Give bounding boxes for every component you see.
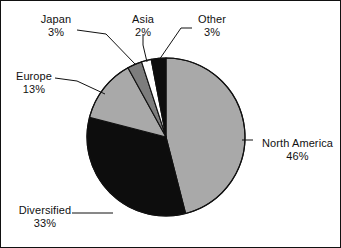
pie-slices bbox=[87, 58, 245, 216]
slice-label-asia-name: Asia bbox=[113, 13, 173, 26]
slice-label-other-percent: 3% bbox=[182, 26, 242, 39]
slice-label-asia: Asia 2% bbox=[113, 13, 173, 38]
leader-line-asia bbox=[143, 34, 147, 62]
slice-label-north-america-percent: 46% bbox=[255, 150, 340, 163]
slice-label-europe: Europe 13% bbox=[3, 70, 65, 95]
slice-label-north-america-name: North America bbox=[255, 137, 340, 150]
slice-label-diversified-percent: 33% bbox=[3, 217, 87, 230]
slice-label-japan-percent: 3% bbox=[26, 26, 86, 39]
slice-label-japan: Japan 3% bbox=[26, 13, 86, 38]
slice-label-other: Other 3% bbox=[182, 13, 242, 38]
slice-label-diversified: Diversified 33% bbox=[3, 204, 87, 229]
slice-label-other-name: Other bbox=[182, 13, 242, 26]
slice-label-north-america: North America 46% bbox=[255, 137, 340, 162]
slice-label-asia-percent: 2% bbox=[113, 26, 173, 39]
pie-chart-figure: Japan 3% Asia 2% Other 3% Europe 13% Div… bbox=[0, 0, 341, 248]
slice-label-europe-percent: 13% bbox=[3, 83, 65, 96]
slice-label-japan-name: Japan bbox=[26, 13, 86, 26]
slice-label-diversified-name: Diversified bbox=[3, 204, 87, 217]
slice-label-europe-name: Europe bbox=[3, 70, 65, 83]
